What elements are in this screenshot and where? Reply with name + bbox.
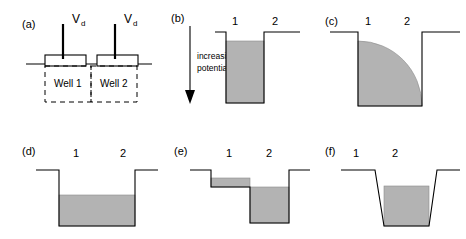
panel-c-label: (c) (325, 15, 338, 27)
panel-d-well-fill (59, 195, 135, 226)
panel-e-well-2-fill (250, 187, 289, 223)
gate-right-voltage-label: V (124, 12, 132, 26)
gate-electrode-right (97, 55, 138, 66)
gate-right-voltage-subscript: d (133, 19, 137, 28)
panel-b-well-fill (226, 41, 264, 103)
panel-e-label: (e) (174, 145, 187, 157)
panel-b: (b) increasing potential 1 2 (171, 12, 300, 104)
panel-f-well-2-number: 2 (392, 147, 398, 159)
figure-canvas: (a) V d V d Well 1 Well 2 (b) (0, 0, 466, 239)
increasing-potential-arrow-head (185, 90, 195, 104)
gate-left-voltage-subscript: d (81, 19, 85, 28)
panel-e-well-1-fill (211, 178, 250, 187)
panel-b-label: (b) (171, 12, 184, 24)
panel-a: (a) V d V d Well 1 Well 2 (22, 12, 152, 102)
well-1-name: Well 1 (54, 78, 82, 89)
panel-e-well-2-number: 2 (266, 147, 272, 159)
well-2-name: Well 2 (100, 78, 128, 89)
gate-electrode-left (45, 55, 86, 66)
panel-d-label: (d) (22, 145, 35, 157)
panel-e-well-1-number: 1 (226, 147, 232, 159)
panel-d-well-1-number: 1 (73, 147, 79, 159)
panel-f-label: (f) (325, 145, 335, 157)
panel-e: (e) 1 2 (174, 145, 310, 223)
panel-c-well-fill (358, 41, 422, 106)
panel-c-well-2-number: 2 (404, 15, 410, 27)
figure-root: (a) V d V d Well 1 Well 2 (b) (0, 0, 466, 239)
panel-f-well-fill (384, 186, 429, 226)
panel-f-well-1-number: 1 (353, 147, 359, 159)
panel-a-label: (a) (22, 18, 35, 30)
panel-b-well-1-number: 1 (232, 15, 238, 27)
panel-d-well-2-number: 2 (120, 147, 126, 159)
panel-b-well-2-number: 2 (272, 15, 278, 27)
gate-left-voltage-label: V (72, 12, 80, 26)
panel-f: (f) 1 2 (325, 145, 460, 226)
panel-d: (d) 1 2 (22, 145, 158, 226)
panel-c-well-1-number: 1 (365, 15, 371, 27)
panel-c: (c) 1 2 (325, 15, 460, 106)
increasing-potential-caption-line-2: potential (197, 63, 229, 73)
